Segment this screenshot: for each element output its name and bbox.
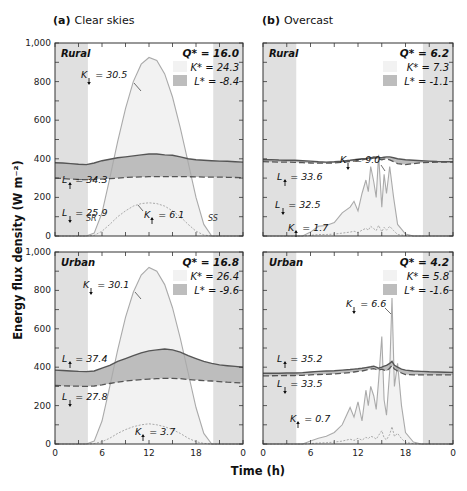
- k-down-annotation: K= 30.1: [83, 279, 129, 290]
- k-star-value: K* = 26.4: [190, 271, 239, 282]
- site-label: Rural: [61, 48, 91, 59]
- x-tick-label: 0: [52, 448, 58, 458]
- y-tick-label: 600: [34, 324, 51, 334]
- arrow-head-icon: [89, 292, 93, 295]
- site-label: Urban: [61, 257, 95, 268]
- q-star-value: Q* = 6.2: [400, 47, 449, 59]
- x-tick-label: 18: [190, 448, 202, 458]
- arrow-head-icon: [296, 421, 300, 424]
- l-star-value: L* = -1.1: [404, 76, 449, 87]
- x-tick-label: 0: [260, 448, 266, 458]
- y-tick-label: 0: [45, 439, 51, 449]
- k-star-legend-swatch: [173, 270, 187, 281]
- panel-overcast-rural: RuralQ* = 6.2K* = 7.3L* = -1.1K= 9.0L= 3…: [263, 43, 453, 237]
- k-up-annotation: K= 6.1: [144, 209, 184, 220]
- x-tick-label: 0: [450, 448, 456, 458]
- sunrise-label: SR: [86, 214, 97, 223]
- x-tick-label: 12: [143, 448, 154, 458]
- column-title-a: (a)Clear skies: [53, 14, 135, 27]
- q-star-value: Q* = 16.8: [183, 256, 239, 268]
- x-tick-label: 6: [308, 448, 314, 458]
- y-tick-label: 800: [34, 285, 51, 295]
- y-tick-label: 400: [34, 154, 51, 164]
- column-title-b: (b)Overcast: [262, 14, 334, 27]
- k-down-annotation: K= 6.6: [346, 298, 386, 309]
- k-star-value: K* = 24.3: [190, 62, 239, 73]
- x-tick-label: 6: [99, 448, 105, 458]
- l-star-legend-swatch: [173, 284, 187, 295]
- panel-clear-urban: 02004006008001,0000612180UrbanQ* = 16.8K…: [25, 247, 246, 458]
- panel-clear-rural: 02004006008001,000RuralQ* = 16.0K* = 24.…: [25, 38, 243, 241]
- arrow-head-icon: [346, 167, 350, 170]
- leader-line: [381, 165, 385, 171]
- y-tick-label: 600: [34, 115, 51, 125]
- k-star-legend-swatch: [383, 270, 397, 281]
- site-label: Urban: [269, 257, 303, 268]
- l-star-value: L* = -1.6: [404, 285, 449, 296]
- k-star-legend-swatch: [173, 61, 187, 72]
- k-up-annotation: K= 3.7: [135, 426, 175, 437]
- panel-overcast-urban: 0612180UrbanQ* = 4.2K* = 5.8L* = -1.6K= …: [260, 252, 456, 458]
- l-star-legend-swatch: [383, 75, 397, 86]
- x-axis-title: Time (h): [231, 464, 285, 478]
- l-star-legend-swatch: [173, 75, 187, 86]
- x-tick-label: 18: [400, 448, 412, 458]
- y-tick-label: 400: [34, 362, 51, 372]
- k-up-annotation: K= 0.7: [290, 413, 330, 424]
- x-tick-label: 0: [240, 448, 246, 458]
- l-star-value: L* = -9.6: [194, 285, 239, 296]
- k-up-annotation: K= 1.7: [288, 222, 328, 233]
- site-label: Rural: [269, 48, 299, 59]
- y-tick-label: 200: [34, 192, 51, 202]
- q-star-value: Q* = 4.2: [400, 256, 449, 268]
- k-star-value: K* = 7.3: [407, 62, 449, 73]
- k-star-value: K* = 5.8: [407, 271, 449, 282]
- arrow-head-icon: [352, 311, 356, 314]
- y-axis-title: Energy flux density (W m⁻²): [11, 160, 25, 340]
- k-down-annotation: K= 9.0: [340, 154, 380, 165]
- k-star-legend-swatch: [383, 61, 397, 72]
- k-down-annotation: K= 30.5: [81, 69, 127, 80]
- x-tick-label: 12: [352, 448, 363, 458]
- l-star-value: L* = -8.4: [194, 76, 239, 87]
- y-tick-label: 1,000: [25, 38, 51, 48]
- y-tick-label: 200: [34, 401, 51, 411]
- chart: (a)Clear skies (b)Overcast Energy flux d…: [0, 0, 467, 491]
- sunset-label: SS: [208, 214, 218, 223]
- y-tick-label: 800: [34, 77, 51, 87]
- l-star-legend-swatch: [383, 284, 397, 295]
- leader-line: [385, 308, 391, 314]
- q-star-value: Q* = 16.0: [183, 47, 239, 59]
- y-tick-label: 1,000: [25, 247, 51, 257]
- y-tick-label: 0: [45, 231, 51, 241]
